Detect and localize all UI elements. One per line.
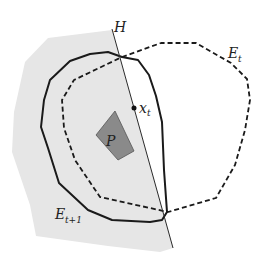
svg-text:E: E <box>227 45 238 61</box>
label-polytope-p: P <box>105 133 116 149</box>
label-hyperplane-h: H <box>113 19 127 35</box>
svg-text:x: x <box>139 100 147 116</box>
svg-text:t+1: t+1 <box>65 215 82 225</box>
svg-text:t: t <box>147 108 151 118</box>
svg-text:E: E <box>54 206 65 222</box>
ellipsoid-method-diagram: H E t x t P E t+1 <box>0 0 266 269</box>
svg-text:t: t <box>238 54 242 64</box>
center-point-xt <box>132 106 137 111</box>
